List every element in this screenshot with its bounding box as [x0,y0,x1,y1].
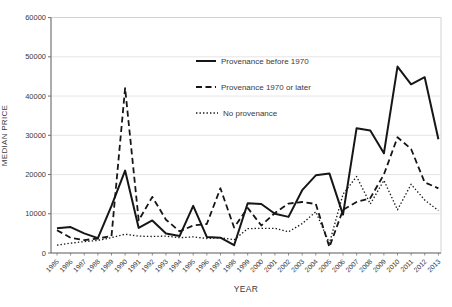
line-chart-canvas: 0100002000030000400005000060000198519861… [0,0,452,307]
y-tick-label: 20000 [25,170,46,179]
x-tick-label: 1990 [113,258,129,274]
solid-line-icon [196,57,216,65]
x-tick-label: 1997 [208,258,224,274]
legend-item-provenance-before-1970: Provenance before 1970 [196,53,311,69]
x-tick-label: 1993 [154,258,170,274]
x-tick-label: 2009 [371,258,387,274]
x-tick-label: 2003 [290,258,306,274]
x-tick-label: 1989 [99,258,115,274]
chart-frame: 0100002000030000400005000060000198519861… [0,0,452,307]
x-tick-label: 2000 [249,258,265,274]
x-tick-label: 1992 [140,258,156,274]
x-tick-label: 1995 [181,258,197,274]
legend-label: Provenance before 1970 [221,57,309,66]
x-tick-label: 2012 [412,258,428,274]
x-tick-label: 2013 [426,258,442,274]
x-tick-label: 1987 [72,258,88,274]
x-tick-label: 2011 [399,258,414,273]
x-tick-label: 1994 [167,258,183,274]
legend-label: Provenance 1970 or later [221,83,311,92]
y-tick-label: 50000 [25,52,46,61]
y-tick-label: 10000 [25,209,46,218]
x-tick-label: 1998 [222,258,238,274]
dashed-line-icon [196,83,216,91]
x-tick-label: 2008 [358,258,374,274]
dotted-line-icon [196,109,218,117]
x-tick-label: 1986 [58,258,74,274]
x-tick-label: 1996 [194,258,210,274]
x-tick-label: 2006 [331,258,347,274]
y-axis-title: MEDIAN PRICE [0,101,9,171]
y-tick-label: 30000 [25,131,46,140]
x-tick-label: 2001 [262,258,278,274]
x-axis-title: YEAR [51,284,441,294]
legend-item-no-provenance: No provenance [196,105,311,121]
x-tick-label: 2010 [385,258,401,274]
x-tick-label: 1991 [126,258,142,274]
x-tick-label: 1988 [85,258,101,274]
x-tick-label: 2004 [303,258,319,274]
legend-item-provenance-1970-or-later: Provenance 1970 or later [196,79,311,95]
x-tick-label: 2007 [344,258,360,274]
x-tick-label: 1999 [235,258,251,274]
y-tick-label: 40000 [25,92,46,101]
chart-legend: Provenance before 1970 Provenance 1970 o… [196,53,311,131]
x-tick-label: 2005 [317,258,333,274]
y-tick-label: 0 [42,249,46,258]
x-tick-label: 1985 [45,258,61,274]
legend-label: No provenance [223,109,277,118]
series-line-dotted [57,177,438,246]
x-tick-label: 2002 [276,258,292,274]
y-tick-label: 60000 [25,13,46,22]
